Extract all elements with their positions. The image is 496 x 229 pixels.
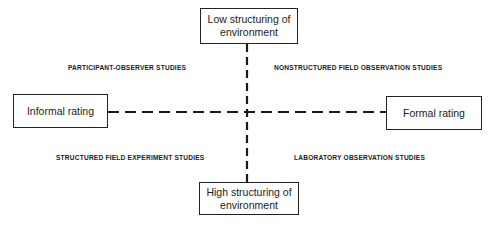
informal-rating-box: Informal rating xyxy=(13,94,108,128)
low-structuring-label-line2: environment xyxy=(208,26,291,39)
high-structuring-label-line1: High structuring of xyxy=(206,186,291,199)
quadrant-top-right-label: NONSTRUCTURED FIELD OBSERVATION STUDIES xyxy=(274,64,442,71)
quadrant-bottom-left-label: STRUCTURED FIELD EXPERIMENT STUDIES xyxy=(56,154,204,161)
low-structuring-box: Low structuring of environment xyxy=(200,8,298,44)
high-structuring-box: High structuring of environment xyxy=(199,182,299,215)
quadrant-top-left-label: PARTICIPANT-OBSERVER STUDIES xyxy=(68,64,186,71)
formal-rating-label: Formal rating xyxy=(403,107,465,120)
informal-rating-label: Informal rating xyxy=(27,105,94,118)
formal-rating-box: Formal rating xyxy=(386,96,482,130)
quadrant-bottom-right-label: LABORATORY OBSERVATION STUDIES xyxy=(294,154,425,161)
high-structuring-label-line2: environment xyxy=(206,199,291,212)
low-structuring-label-line1: Low structuring of xyxy=(208,13,291,26)
